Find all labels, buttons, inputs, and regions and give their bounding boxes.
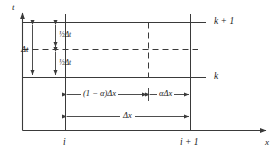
delta-x-label: Δx [120,111,135,120]
finite-difference-grid-figure: t x k + 1 k i i + 1 Δt ½Δt ½Δt (1 − α)Δx… [0,0,278,154]
time-level-label-k-plus-1: k + 1 [214,17,234,27]
half-delta-t-lower-label: ½Δt [59,59,71,67]
delta-t-label: Δt [21,45,28,54]
space-node-label-i: i [63,138,66,148]
right-segment-label: αΔx [157,89,174,98]
half-delta-t-upper-label: ½Δt [59,31,71,39]
time-level-label-k: k [214,72,218,82]
x-axis-label: x [265,138,269,147]
space-node-label-i-plus-1: i + 1 [180,138,199,148]
diagram-canvas [0,0,278,154]
t-axis-label: t [12,3,15,12]
left-segment-label: (1 − α)Δx [81,89,118,98]
